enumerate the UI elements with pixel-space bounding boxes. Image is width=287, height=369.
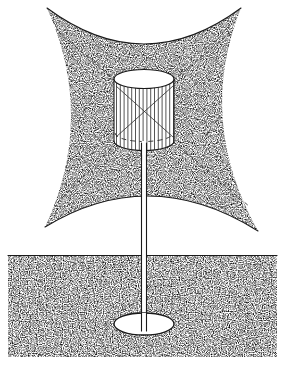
technical-illustration xyxy=(0,0,287,369)
caged-cylinder-group xyxy=(114,70,174,153)
support-pole-group xyxy=(141,136,147,330)
pole-upper-fill xyxy=(142,141,146,155)
cylinder-body-fill xyxy=(114,79,174,151)
illustration-canvas xyxy=(0,0,287,369)
cylinder-top-lid xyxy=(114,70,174,89)
pole-base-overlap xyxy=(142,313,147,325)
